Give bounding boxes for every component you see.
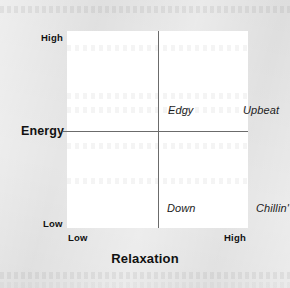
quadrant-label-upbeat: Upbeat: [243, 104, 279, 116]
y-axis-high-label: High: [41, 32, 63, 43]
x-axis-low-label: Low: [68, 232, 88, 243]
x-axis-high-label: High: [224, 232, 246, 243]
plot-area: Edgy Upbeat Down Chillin': [67, 31, 248, 228]
quadrant-label-chillin: Chillin': [256, 202, 289, 214]
quadrant-label-down: Down: [167, 202, 196, 214]
y-axis-low-label: Low: [43, 218, 63, 229]
scan-bleedthrough-bottom: [0, 272, 290, 279]
vertical-axis-line: [158, 31, 159, 228]
y-axis-title: Energy: [21, 124, 64, 138]
x-axis-title: Relaxation: [0, 251, 290, 266]
quadrant-diagram: Edgy Upbeat Down Chillin' High Low Low H…: [0, 0, 290, 288]
scan-bleedthrough-top: [0, 6, 290, 13]
quadrant-label-edgy: Edgy: [168, 104, 193, 116]
horizontal-axis-line: [67, 131, 248, 132]
scan-bleedthrough-bottom-2: [0, 282, 290, 288]
